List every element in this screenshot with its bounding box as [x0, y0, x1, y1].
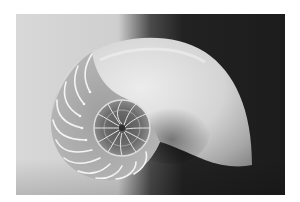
nautilus-photo [16, 14, 285, 195]
